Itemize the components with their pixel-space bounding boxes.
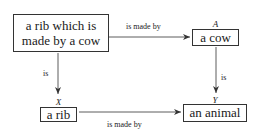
edge-label-pullback-rib: is <box>43 69 48 78</box>
node-pullback-line1: a rib which is <box>14 18 108 33</box>
edge-label-cow-animal: is <box>221 73 226 82</box>
edge-label-pullback-cow: is made by <box>126 22 161 31</box>
rib-object-label: X <box>40 97 77 107</box>
node-rib: a rib <box>40 107 77 122</box>
edge-label-rib-animal: is made by <box>107 120 142 129</box>
cow-object-label: A <box>192 19 239 29</box>
node-pullback: a rib which is made by a cow <box>13 14 109 52</box>
node-cow: a cow <box>192 29 239 46</box>
node-pullback-line2: made by a cow <box>14 33 108 48</box>
node-animal: an animal <box>183 104 247 122</box>
